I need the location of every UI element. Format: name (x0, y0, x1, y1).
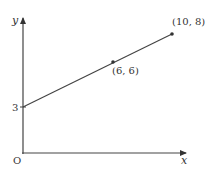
y-tick-label: 3 (12, 102, 18, 113)
coordinate-diagram: y x O 3 (6, 6) (10, 8) (0, 0, 206, 174)
x-axis-label: x (181, 154, 188, 167)
origin-label: O (13, 155, 21, 166)
point-10-8 (170, 32, 174, 36)
point-6-6 (111, 60, 115, 64)
point-label-6-6: (6, 6) (112, 65, 139, 76)
y-axis-label: y (11, 14, 19, 27)
line-segment (23, 34, 172, 107)
point-label-10-8: (10, 8) (172, 16, 205, 27)
